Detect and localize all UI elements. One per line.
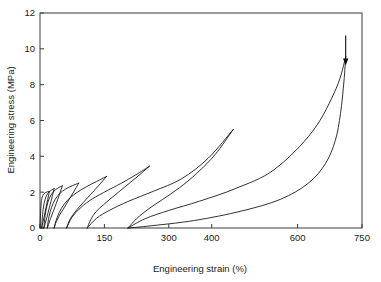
y-tick-label: 10 bbox=[24, 43, 35, 54]
x-tick-label: 750 bbox=[354, 232, 370, 243]
stress-strain-chart: 0150300400600750 024681012 Engineering s… bbox=[0, 0, 381, 282]
y-axis-label: Engineering stress (MPa) bbox=[5, 66, 16, 173]
x-tick-label: 300 bbox=[161, 232, 177, 243]
x-tick-label: 400 bbox=[204, 232, 220, 243]
x-tick-label: 150 bbox=[96, 232, 112, 243]
x-tick-label: 600 bbox=[290, 232, 306, 243]
y-tick-label: 4 bbox=[30, 151, 35, 162]
x-tick-label: 0 bbox=[37, 232, 42, 243]
chart-canvas: 0150300400600750 024681012 Engineering s… bbox=[0, 0, 381, 282]
x-axis-label: Engineering strain (%) bbox=[153, 263, 247, 274]
y-tick-label: 12 bbox=[24, 7, 35, 18]
y-tick-label: 6 bbox=[30, 115, 35, 126]
y-tick-label: 0 bbox=[30, 222, 35, 233]
y-tick-label: 8 bbox=[30, 79, 35, 90]
chart-background bbox=[0, 0, 381, 282]
y-tick-label: 2 bbox=[30, 187, 35, 198]
